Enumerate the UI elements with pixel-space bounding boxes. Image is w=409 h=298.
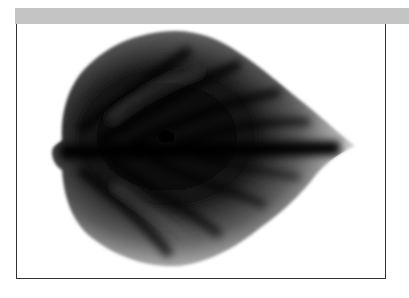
- leaf-image: [0, 0, 409, 298]
- leaf-shape: [52, 31, 355, 266]
